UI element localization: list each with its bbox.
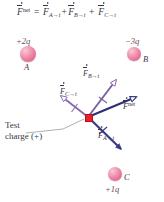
vector-label-f-c-subscript: C→t <box>65 91 77 97</box>
vector-label-f-a-to-t: FA→t <box>98 130 114 141</box>
vector-label-f-net: Fnet <box>123 101 135 111</box>
test-charge-marker <box>85 114 93 122</box>
vector-label-f-c-symbol: F <box>60 86 65 96</box>
vector-label-f-b-subscript: B→t <box>88 73 99 79</box>
vector-label-f-net-superscript: net <box>128 101 135 107</box>
vector-label-f-a-subscript: A→t <box>103 135 114 141</box>
vector-f-c-to-t <box>61 96 88 117</box>
test-charge-label-line1: Test <box>5 120 42 131</box>
physics-force-diagram: Fnet = FA→t+FB→t + FC→t +2q A −3q B C +1… <box>0 0 164 202</box>
vector-label-f-c-to-t: FC→t <box>60 86 77 97</box>
vector-label-f-net-symbol: F <box>123 101 128 111</box>
vector-label-f-a-symbol: F <box>98 130 103 140</box>
test-charge-label-line2: charge (+) <box>5 131 42 142</box>
vector-canvas <box>0 0 164 202</box>
vector-label-f-b-symbol: F <box>83 68 88 78</box>
test-charge-label: Test charge (+) <box>5 120 42 142</box>
vector-label-f-b-to-t: FB→t <box>83 68 99 79</box>
